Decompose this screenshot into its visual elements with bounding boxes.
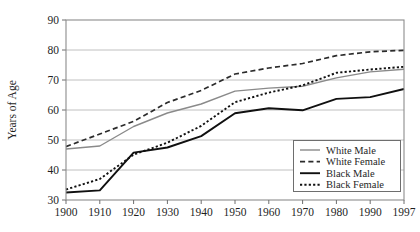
x-tick-label: 1900: [55, 206, 78, 218]
y-tick-label: 80: [48, 44, 60, 56]
x-tick-label: 1997: [393, 206, 416, 218]
y-axis-tick-marks: [62, 20, 66, 200]
x-tick-label: 1980: [325, 206, 348, 218]
legend-label-black-male: Black Male: [326, 168, 375, 179]
y-axis-title: Years of Age: [6, 80, 19, 140]
x-tick-label: 1970: [291, 206, 314, 218]
x-axis-tick-labels: 1900191019201930194019501960197019801990…: [55, 206, 416, 218]
legend-label-white-male: White Male: [326, 145, 376, 156]
x-tick-label: 1920: [122, 206, 145, 218]
chart-canvas: 30405060708090 1900191019201930194019501…: [0, 0, 420, 232]
x-tick-label: 1990: [359, 206, 382, 218]
life-expectancy-line-chart: 30405060708090 1900191019201930194019501…: [0, 0, 420, 232]
x-tick-label: 1960: [257, 206, 280, 218]
chart-legend: White MaleWhite FemaleBlack MaleBlack Fe…: [294, 141, 401, 192]
y-tick-label: 70: [48, 74, 60, 86]
x-axis-tick-marks: [66, 200, 404, 204]
y-tick-label: 50: [48, 134, 60, 146]
x-tick-label: 1930: [156, 206, 179, 218]
legend-label-white-female: White Female: [326, 156, 386, 167]
x-tick-label: 1950: [224, 206, 247, 218]
y-tick-label: 90: [48, 14, 60, 26]
y-tick-label: 40: [48, 164, 60, 176]
x-tick-label: 1910: [88, 206, 111, 218]
y-tick-label: 60: [48, 104, 60, 116]
y-axis-tick-labels: 30405060708090: [48, 14, 60, 206]
legend-label-black-female: Black Female: [326, 179, 384, 190]
y-tick-label: 30: [48, 194, 60, 206]
x-tick-label: 1940: [190, 206, 213, 218]
